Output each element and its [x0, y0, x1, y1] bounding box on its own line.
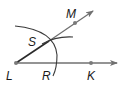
- label-k: K: [87, 69, 96, 83]
- label-m: M: [66, 7, 76, 21]
- compass-arc-center-l: [15, 26, 57, 76]
- label-r: R: [42, 69, 51, 83]
- point-m: [73, 21, 77, 25]
- point-l: [14, 61, 18, 65]
- geometry-diagram: L R K S M: [0, 0, 125, 87]
- label-s: S: [28, 35, 36, 49]
- label-l: L: [6, 69, 13, 83]
- point-k: [89, 61, 93, 65]
